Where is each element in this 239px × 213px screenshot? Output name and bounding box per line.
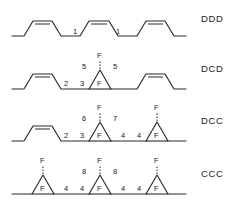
fluorine-label-apex: F [40,156,45,165]
locant-number: 1 [73,27,77,36]
fluorine-labels-dcd: F F [97,51,102,88]
structure-drawing-dcd: F F 2 3 5 5 [0,48,239,101]
fluorine-label-ring: F [40,184,45,193]
fluorine-apex-bonds-dcc [100,112,157,121]
backbone-ddd [12,21,186,36]
series-label-dcd: DCD [201,63,223,74]
locant-number: 4 [80,184,84,193]
locant-numbers-dcd: 2 3 5 5 [64,62,117,88]
fluorine-label-ring: F [97,131,102,140]
locant-number: 4 [64,184,68,193]
figure-canvas: 1 1 DDD [0,0,239,213]
series-label-ddd: DDD [201,13,223,24]
series-label-dcc: DCC [201,115,223,126]
locant-number: 3 [80,131,84,140]
structure-row-dcc: F F F F 2 3 6 7 4 4 [0,100,239,153]
fluorine-label-ring: F [154,131,159,140]
structure-drawing-dcc: F F F F 2 3 6 7 4 4 [0,100,239,153]
fluorine-apex-bonds-ccc [43,165,157,174]
fluorine-label-ring: F [154,184,159,193]
locant-number: 2 [64,131,68,140]
series-label-ccc: CCC [201,168,223,179]
locant-number: 4 [137,131,141,140]
locant-number: 5 [82,62,86,71]
locant-number: 8 [113,167,117,176]
fluorine-label-ring: F [97,184,102,193]
locant-number: 5 [113,62,117,71]
structure-drawing-ddd: 1 1 [0,0,239,48]
structure-row-dcd: F F 2 3 5 5 [0,48,239,101]
fluorine-label-apex: F [97,156,102,165]
structure-drawing-ccc: F F F F F F 4 4 8 8 4 4 [0,153,239,213]
locant-number: 4 [137,184,141,193]
locant-number: 7 [113,114,117,123]
structure-row-ccc: F F F F F F 4 4 8 8 4 4 [0,153,239,213]
locant-number: 3 [80,79,84,88]
locant-number: 4 [121,131,125,140]
fluorine-label-ring: F [97,79,102,88]
locant-number: 4 [121,184,125,193]
fluorine-label-apex: F [97,103,102,112]
fluorine-label-apex: F [154,103,159,112]
fluorine-label-apex: F [97,51,102,60]
fluorine-label-apex: F [154,156,159,165]
locant-number: 8 [82,167,86,176]
structure-row-ddd: 1 1 [0,0,239,48]
locant-number: 1 [116,27,120,36]
locant-number: 6 [82,114,86,123]
locant-number: 2 [64,79,68,88]
